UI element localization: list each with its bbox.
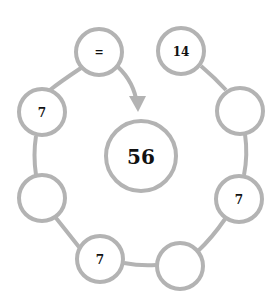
- connector-leftlower-to-bottom7: [56, 218, 79, 247]
- connector-right7-to-rightupper: [244, 134, 246, 175]
- node-bottom-right[interactable]: [157, 243, 203, 289]
- node-label: 7: [38, 106, 46, 120]
- node-left-7: 7: [19, 89, 65, 135]
- connector-left7-to-leftlower: [35, 136, 37, 175]
- center-node: 56: [106, 121, 176, 191]
- node-bottom-7: 7: [77, 236, 123, 282]
- node-14: 14: [158, 28, 204, 74]
- center-value: 56: [127, 145, 155, 169]
- node-left-lower[interactable]: [19, 175, 65, 221]
- connector-bottomright-to-right7: [197, 219, 225, 252]
- arrow-head-icon: [129, 96, 146, 112]
- number-ring-diagram: = 14 7 7 7 56: [0, 0, 280, 300]
- connector-bottom7-to-bottomright: [124, 263, 156, 265]
- node-label: 14: [173, 45, 190, 59]
- node-label: 7: [235, 193, 243, 207]
- node-label: =: [94, 46, 103, 59]
- node-right-7: 7: [216, 176, 262, 222]
- node-right-upper[interactable]: [217, 88, 263, 134]
- node-label: 7: [96, 253, 104, 267]
- connector-equals-to-left7: [50, 68, 81, 90]
- node-equals: =: [76, 29, 122, 75]
- connector-14-to-rightupper: [201, 66, 226, 90]
